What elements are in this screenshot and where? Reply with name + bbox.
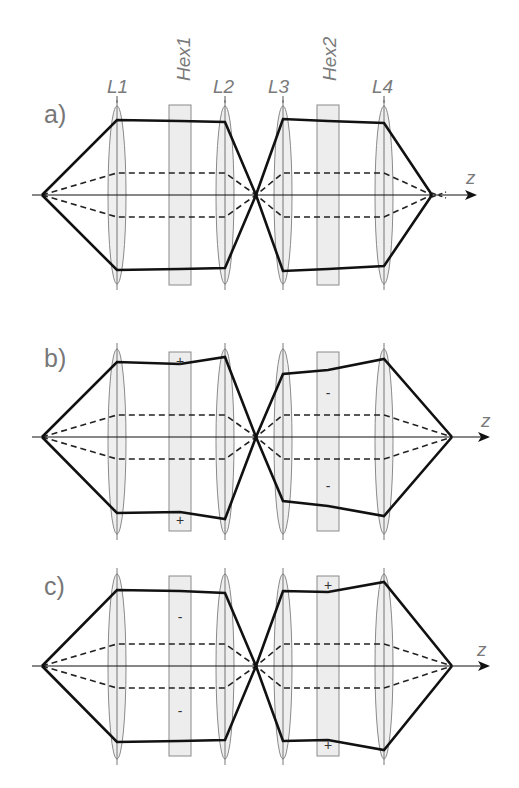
axis-label-z-b: z	[481, 410, 491, 432]
hex-label-hex1: Hex1	[173, 37, 195, 81]
hexapole-sign-minus: -	[178, 609, 183, 625]
hexapole-sign-plus: +	[176, 353, 184, 369]
hexapole-sign-plus: +	[324, 737, 332, 753]
panel-label-a: a)	[44, 100, 66, 129]
lens-label-l2: L2	[213, 76, 234, 98]
paraxial-ray-lower-a	[42, 195, 432, 217]
lens-label-l4: L4	[372, 76, 393, 98]
lens-label-l3: L3	[268, 76, 289, 98]
axis-label-z-a: z	[466, 167, 476, 189]
hexapole-sign-minus: -	[326, 385, 331, 401]
panel-label-b: b)	[44, 344, 66, 373]
paraxial-ray-upper-a	[42, 173, 432, 195]
axis-label-z-c: z	[477, 639, 487, 661]
hexapole-hex1-b	[169, 352, 191, 531]
hexapole-sign-minus: -	[178, 703, 183, 719]
hexapole-sign-plus: +	[324, 577, 332, 593]
hexapole-corrector-ray-diagram: ++----++	[0, 0, 519, 788]
panel-label-c: c)	[44, 572, 65, 601]
hexapole-sign-minus: -	[326, 478, 331, 494]
hex-label-hex2: Hex2	[319, 37, 341, 81]
hexapole-sign-plus: +	[176, 512, 184, 528]
lens-label-l1: L1	[107, 76, 128, 98]
